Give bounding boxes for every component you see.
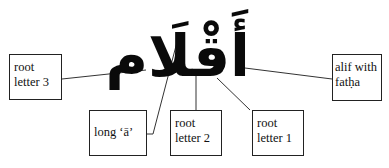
- label-long-a: long ‘ā’: [89, 110, 147, 156]
- label-line: long ‘ā’: [94, 125, 142, 140]
- arabic-word: أَقْلَام: [140, 6, 250, 106]
- label-line: root: [175, 116, 217, 131]
- label-line: root: [14, 60, 57, 75]
- label-root-letter-1: root letter 1: [252, 110, 304, 156]
- label-root-letter-3: root letter 3: [9, 54, 62, 100]
- label-line: fatḥa: [335, 75, 377, 90]
- label-alif-with-fatha: alif with fatḥa: [332, 54, 382, 101]
- connector-alif-with-fatha: [237, 67, 332, 79]
- label-line: letter 2: [175, 131, 217, 146]
- label-line: letter 1: [257, 131, 299, 146]
- label-line: letter 3: [14, 75, 57, 90]
- label-root-letter-2: root letter 2: [170, 110, 222, 156]
- label-line: root: [257, 116, 299, 131]
- label-line: alif with: [335, 60, 377, 75]
